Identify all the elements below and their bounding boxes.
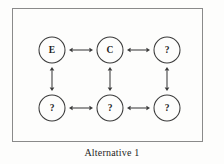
edge-horizontal-double-arrow [127,106,150,111]
edge-vertical-double-arrow [50,67,55,91]
diagram-canvas: EC???? [12,8,203,142]
node-label: E [49,45,55,55]
edge-vertical-double-arrow [108,67,113,91]
edge-horizontal-double-arrow [69,106,93,111]
edge-horizontal-double-arrow [127,48,150,53]
node-n3[interactable]: ? [154,37,180,63]
node-label: ? [50,103,55,113]
figure-root: EC???? Alternative 1 [0,0,224,164]
edge-vertical-double-arrow [165,67,170,91]
node-label: C [107,45,114,55]
node-label: ? [108,103,113,113]
node-n1[interactable]: E [39,37,65,63]
node-n5[interactable]: ? [97,95,123,121]
node-n6[interactable]: ? [154,95,180,121]
edge-horizontal-double-arrow [69,48,93,53]
node-label: ? [165,103,170,113]
node-n2[interactable]: C [97,37,123,63]
node-n4[interactable]: ? [39,95,65,121]
figure-caption: Alternative 1 [0,147,224,158]
node-label: ? [165,45,170,55]
edge-layer [50,48,170,111]
